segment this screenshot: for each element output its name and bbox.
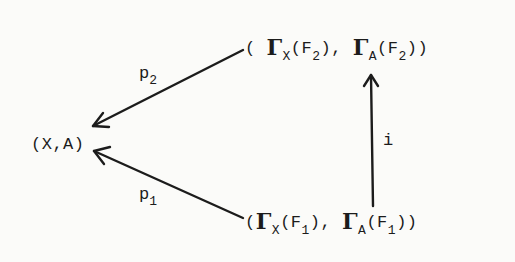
gamma-symbol: Γ — [256, 208, 272, 234]
subscript: 1 — [302, 223, 310, 238]
label-p2-letter: p — [139, 64, 149, 83]
label-p2-subscript: 2 — [149, 73, 157, 88]
argument: (F — [366, 213, 387, 232]
node-base-text: (X,A) — [31, 135, 85, 154]
label-p1-letter: p — [139, 185, 149, 204]
label-i: i — [383, 131, 393, 150]
argument: (F — [377, 39, 398, 58]
gamma-symbol: Γ — [342, 208, 358, 234]
arrow-p2 — [93, 50, 243, 126]
label-i-letter: i — [383, 131, 393, 150]
subscript: X — [283, 49, 291, 64]
close-paren: )) — [407, 39, 428, 58]
label-p2: p2 — [139, 64, 157, 83]
argument: (F — [291, 39, 312, 58]
argument: (F — [280, 213, 301, 232]
close-paren: ), — [321, 39, 353, 58]
subscript: 2 — [312, 49, 320, 64]
arrow-p1 — [94, 151, 243, 218]
subscript: A — [369, 49, 377, 64]
node-base-pair: (X,A) — [31, 135, 85, 154]
close-paren: ), — [310, 213, 342, 232]
subscript: 1 — [388, 223, 396, 238]
subscript: 2 — [399, 49, 407, 64]
subscript: X — [272, 223, 280, 238]
open-paren: ( — [245, 39, 266, 58]
open-paren: ( — [245, 213, 256, 232]
arrow-i — [371, 75, 373, 206]
label-p1-subscript: 1 — [149, 194, 157, 209]
subscript: A — [358, 223, 366, 238]
node-bottom-pair: (ΓX(F1), ΓA(F1)) — [245, 206, 418, 232]
node-top-pair: ( ΓX(F2), ΓA(F2)) — [245, 32, 428, 58]
label-p1: p1 — [139, 185, 157, 204]
gamma-symbol: Γ — [353, 34, 369, 60]
gamma-symbol: Γ — [266, 34, 282, 60]
close-paren: )) — [396, 213, 417, 232]
